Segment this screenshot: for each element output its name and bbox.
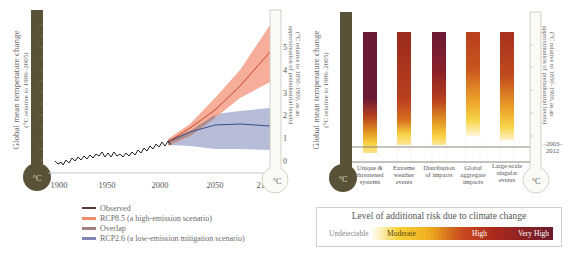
risk-legend: Level of additional risk due to climate … <box>316 207 562 247</box>
risk-level-moderate: Moderate <box>387 228 416 239</box>
category-extreme: Extremeweatherevents <box>393 164 415 185</box>
risk-level-very-high: Very High <box>518 228 549 239</box>
risk-right-ylabel: (°C relative to 1850–1900, as an approxi… <box>541 26 556 124</box>
risk-left-thermometer: °C <box>329 12 357 192</box>
risk-bar-extreme <box>397 32 411 145</box>
y-tick-1: 1 <box>283 134 287 143</box>
x-tick-1950: 1950 <box>99 180 116 190</box>
category-distribution: Distributionof impacts <box>423 164 455 178</box>
risk-legend-title: Level of additional risk due to climate … <box>317 211 561 221</box>
risk-bar-largescale <box>500 32 514 140</box>
legend-overlap: Overlap <box>82 223 126 233</box>
x-tick-2050: 2050 <box>207 180 224 190</box>
risk-bar-distribution <box>432 32 446 145</box>
y-tick-0: 0 <box>283 157 287 166</box>
y-tick-3: 3 <box>283 89 287 98</box>
category-largescale: Large-scalesingularevents <box>492 162 522 183</box>
left-ylabel-sub: (°C relative to 1986–2005) <box>22 52 30 128</box>
legend-rcp26: RCP2.6 (a low-emission mitigation scenar… <box>82 233 245 243</box>
y-tick-2: 2 <box>283 111 287 120</box>
risk-gradient-bar: Undetectable Moderate High Very High <box>325 227 553 240</box>
risk-level-undetectable: Undetectable <box>329 228 369 239</box>
marker-2003-2012: –2003–2012 <box>542 140 563 154</box>
celsius-symbol: °C <box>33 174 42 183</box>
risk-level-high: High <box>472 228 487 239</box>
risk-bar-global <box>466 32 480 136</box>
observed-line <box>55 141 171 165</box>
risk-left-ylabel: Global mean temperature change <box>311 30 321 149</box>
svg-text:°C: °C <box>273 177 282 186</box>
category-global: Globalaggregateimpacts <box>460 164 485 185</box>
y-tick-5: 5 <box>283 43 287 52</box>
y-tick-4: 4 <box>283 66 287 75</box>
risk-chart: Global mean temperature change (°C relat… <box>300 0 570 200</box>
projection-chart: °C Global mean temperature change (°C re… <box>0 0 305 200</box>
svg-text:°C: °C <box>339 175 348 184</box>
x-tick-1900: 1900 <box>51 180 68 190</box>
svg-text:°C: °C <box>532 177 541 186</box>
legend-observed: Observed <box>82 203 131 213</box>
left-ylabel: Global mean temperature change <box>11 30 21 149</box>
legend-rcp85: RCP8.5 (a high-emission scenario) <box>82 213 212 223</box>
risk-bar-unique <box>363 32 377 153</box>
risk-left-ylabel-sub: (°C relative to 1986–2005) <box>322 52 330 128</box>
category-unique: Unique &threatenedsystems <box>356 164 384 185</box>
x-tick-2000: 2000 <box>152 180 169 190</box>
